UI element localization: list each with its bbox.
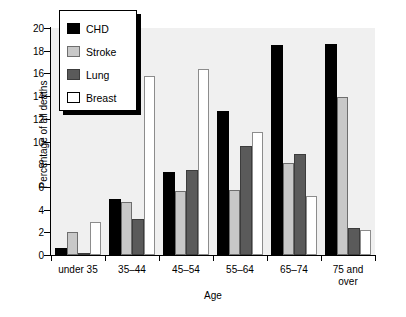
bar-lung [294, 154, 306, 255]
y-tick-label: 4 [16, 204, 44, 215]
bar-stroke [337, 97, 349, 255]
bar-lung [132, 219, 144, 255]
y-tick-label: 12 [16, 113, 44, 124]
y-tick-mark [44, 142, 50, 143]
x-tick-mark [105, 256, 106, 261]
bar-chd [217, 111, 229, 255]
y-tick-label: 16 [16, 68, 44, 79]
y-tick-label: 18 [16, 45, 44, 56]
legend-swatch-breast [67, 92, 80, 103]
x-axis-title: Age [51, 290, 375, 301]
bar-chd [271, 45, 283, 255]
x-tick-label: 65–74 [267, 264, 321, 276]
x-tick-mark [321, 256, 322, 261]
y-tick-mark [44, 28, 50, 29]
bar-chart: Percentage of all deaths 024681012141618… [0, 0, 406, 317]
bar-stroke [121, 202, 133, 255]
legend-label: Lung [86, 69, 109, 81]
bar-lung [348, 228, 360, 255]
bar-breast [144, 76, 156, 255]
legend-item-stroke: Stroke [60, 40, 136, 63]
x-tick-label: 35–44 [105, 264, 159, 276]
bar-breast [90, 222, 102, 255]
x-tick-label: 45–54 [159, 264, 213, 276]
y-tick-label: 0 [16, 250, 44, 261]
bar-breast [252, 132, 264, 255]
bar-lung [78, 253, 90, 255]
y-tick-label: 8 [16, 159, 44, 170]
legend-label: Stroke [86, 46, 116, 58]
bar-chd [325, 44, 337, 255]
y-tick-label: 2 [16, 227, 44, 238]
x-tick-mark [51, 256, 52, 261]
y-tick-mark [44, 255, 50, 256]
legend-label: Breast [86, 92, 116, 104]
x-tick-mark [267, 256, 268, 261]
x-tick-label: 55–64 [213, 264, 267, 276]
bar-stroke [283, 163, 295, 255]
y-tick-mark [44, 210, 50, 211]
bar-stroke [175, 191, 187, 255]
legend-swatch-stroke [67, 46, 80, 57]
y-tick-mark [44, 232, 50, 233]
legend-item-lung: Lung [60, 63, 136, 86]
legend-swatch-lung [67, 69, 80, 80]
legend-item-chd: CHD [60, 17, 136, 40]
bar-stroke [229, 190, 241, 255]
bar-chd [109, 199, 121, 255]
x-tick-label: under 35 [51, 264, 105, 276]
bar-lung [240, 146, 252, 255]
legend-label: CHD [86, 23, 109, 35]
x-tick-mark [375, 256, 376, 261]
y-tick-label: 6 [16, 181, 44, 192]
bar-stroke [67, 232, 79, 255]
y-tick-label: 20 [16, 23, 44, 34]
y-tick-mark [44, 73, 50, 74]
bar-breast [198, 69, 210, 255]
y-tick-mark [44, 51, 50, 52]
x-tick-mark [213, 256, 214, 261]
bar-chd [55, 248, 67, 255]
bar-chd [163, 172, 175, 255]
y-tick-mark [44, 96, 50, 97]
y-tick-label: 10 [16, 136, 44, 147]
x-tick-label: 75 and over [321, 264, 375, 288]
y-tick-label: 14 [16, 91, 44, 102]
x-tick-mark [159, 256, 160, 261]
y-tick-mark [44, 187, 50, 188]
y-tick-mark [44, 119, 50, 120]
legend-swatch-chd [67, 23, 80, 34]
chart-legend: CHDStrokeLungBreast [59, 10, 137, 111]
bar-breast [360, 230, 372, 255]
y-tick-mark [44, 164, 50, 165]
bar-lung [186, 170, 198, 255]
bar-breast [306, 196, 318, 255]
legend-item-breast: Breast [60, 86, 136, 109]
